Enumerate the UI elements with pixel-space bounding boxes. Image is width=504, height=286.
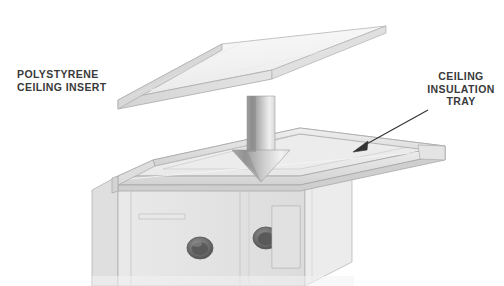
callout-polystyrene-ceiling-insert: POLYSTYRENE CEILING INSERT <box>17 68 107 93</box>
assembly-drawing-canvas <box>0 0 504 286</box>
grommet-right-occluder <box>272 206 300 268</box>
cabinet-bottom-fade <box>92 276 354 286</box>
arrow-left-bevel <box>247 96 256 152</box>
grommet-left <box>187 237 213 259</box>
technical-illustration: POLYSTYRENE CEILING INSERT CEILING INSUL… <box>0 0 504 286</box>
tray-left-end-thickness <box>112 176 118 193</box>
panel-top-face <box>118 26 386 100</box>
grommet-left-highlight <box>192 241 202 247</box>
cabinet-bracket <box>139 214 185 219</box>
tray-right-flange <box>418 145 445 160</box>
callout-ceiling-insulation-tray: CEILING INSULATION TRAY <box>422 70 500 108</box>
